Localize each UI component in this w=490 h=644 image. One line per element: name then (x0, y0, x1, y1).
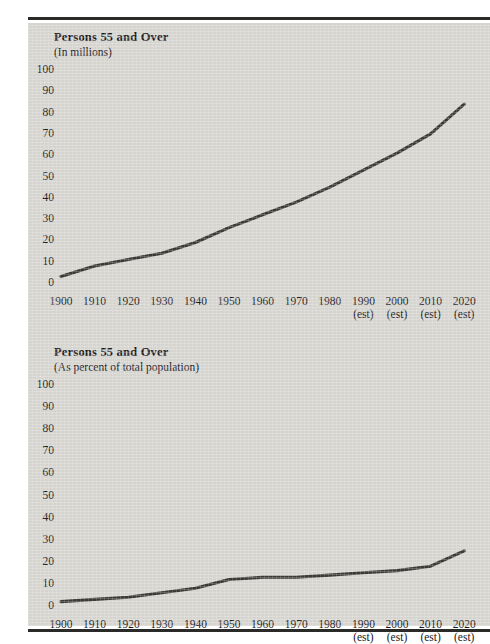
x-axis-tick-year: 2020 (453, 295, 476, 307)
y-axis-tick: 80 (28, 107, 54, 119)
y-axis-tick: 60 (28, 467, 54, 479)
x-axis-tick-year: 1920 (117, 618, 140, 630)
y-axis-tick: 60 (28, 149, 54, 161)
chart1-data-line (61, 104, 464, 277)
x-axis-tick-year: 1930 (150, 618, 173, 630)
y-axis-tick: 50 (28, 490, 54, 502)
y-axis-tick: 100 (28, 379, 54, 391)
x-axis-tick-year: 1990 (352, 618, 375, 630)
x-axis-tick-est: (est) (444, 308, 484, 321)
x-axis-tick-year: 2000 (386, 618, 409, 630)
chart-persons-55-millions: Persons 55 and Over (In millions) 100908… (28, 23, 490, 333)
x-axis-tick-year: 1960 (251, 295, 274, 307)
chart1-plot-area: 1009080706050403020100190019101920193019… (28, 23, 490, 333)
x-axis-tick-year: 2020 (453, 618, 476, 630)
y-axis-tick: 10 (28, 256, 54, 268)
x-axis-tick-year: 1940 (184, 295, 207, 307)
x-axis-tick-year: 1910 (83, 295, 106, 307)
chart-persons-55-percent: Persons 55 and Over (As percent of total… (28, 323, 490, 626)
y-axis-tick: 0 (28, 277, 54, 289)
chart2-data-line (61, 551, 464, 602)
x-axis-tick: 2020(est) (444, 295, 484, 320)
y-axis-tick: 90 (28, 85, 54, 97)
y-axis-tick: 30 (28, 534, 54, 546)
chart2-line-svg (28, 323, 490, 626)
y-axis-tick: 0 (28, 600, 54, 612)
x-axis-tick: 2020(est) (444, 618, 484, 643)
y-axis-tick: 20 (28, 556, 54, 568)
x-axis-tick-year: 1950 (218, 295, 241, 307)
page-top-artifact (30, 0, 470, 13)
x-axis-tick-year: 1900 (50, 295, 73, 307)
x-axis-tick-year: 2000 (386, 295, 409, 307)
chart2-plot-area: 1009080706050403020100190019101920193019… (28, 323, 490, 626)
x-axis-tick-year: 1900 (50, 618, 73, 630)
y-axis-tick: 70 (28, 445, 54, 457)
y-axis-tick: 90 (28, 401, 54, 413)
x-axis-tick-year: 2010 (419, 618, 442, 630)
x-axis-tick-year: 1940 (184, 618, 207, 630)
y-axis-tick: 40 (28, 512, 54, 524)
x-axis-tick-est: (est) (444, 631, 484, 644)
y-axis-tick: 30 (28, 213, 54, 225)
x-axis-tick-year: 1980 (318, 618, 341, 630)
x-axis-tick-year: 1960 (251, 618, 274, 630)
y-axis-tick: 10 (28, 578, 54, 590)
y-axis-tick: 40 (28, 192, 54, 204)
x-axis-tick-year: 1930 (150, 295, 173, 307)
y-axis-tick: 50 (28, 171, 54, 183)
y-axis-tick: 100 (28, 64, 54, 76)
y-axis-tick: 70 (28, 128, 54, 140)
x-axis-tick-year: 1970 (285, 295, 308, 307)
x-axis-tick-year: 1950 (218, 618, 241, 630)
page-canvas: Persons 55 and Over (In millions) 100908… (0, 0, 490, 644)
x-axis-tick-year: 1920 (117, 295, 140, 307)
chart1-line-svg (28, 23, 490, 333)
x-axis-tick-year: 2010 (419, 295, 442, 307)
y-axis-tick: 80 (28, 423, 54, 435)
x-axis-tick-year: 1970 (285, 618, 308, 630)
x-axis-tick-year: 1980 (318, 295, 341, 307)
y-axis-tick: 20 (28, 234, 54, 246)
x-axis-tick-year: 1910 (83, 618, 106, 630)
top-rule (28, 17, 490, 20)
figure-panel: Persons 55 and Over (In millions) 100908… (28, 23, 490, 626)
x-axis-tick-year: 1990 (352, 295, 375, 307)
